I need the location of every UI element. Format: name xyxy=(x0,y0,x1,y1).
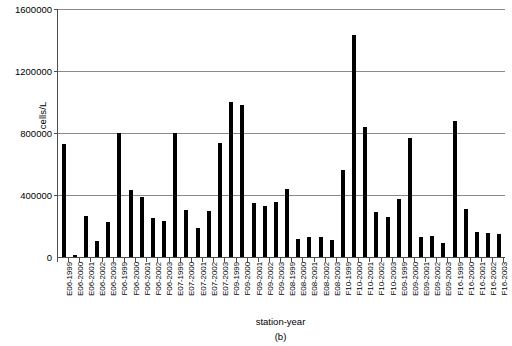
bar xyxy=(62,144,66,257)
bar xyxy=(84,216,88,257)
x-tick-label-wrap: F06-2002 xyxy=(146,262,157,314)
bar-slot xyxy=(315,9,326,257)
x-tick-label-wrap: F10-2002 xyxy=(370,262,381,314)
bar-slot xyxy=(460,9,471,257)
x-tick-label-wrap: F10-1999 xyxy=(336,262,347,314)
x-tick-label-wrap: F10-2003 xyxy=(381,262,392,314)
bar-slot xyxy=(404,9,415,257)
x-tick-label-wrap: F06-1999 xyxy=(113,262,124,314)
x-tick-label-wrap: F06-2003 xyxy=(158,262,169,314)
y-tick-label-1200000: 1200000 xyxy=(0,67,52,77)
bar-slot xyxy=(214,9,225,257)
bar xyxy=(240,105,244,257)
bar-slot xyxy=(259,9,270,257)
bar-slot xyxy=(348,9,359,257)
bar xyxy=(441,243,445,257)
bar-chart-figure: cells/L 1600000 1200000 800000 400000 0 … xyxy=(0,0,512,346)
bar-slot xyxy=(69,9,80,257)
x-tick-label-wrap: E06-2003 xyxy=(102,262,113,314)
bar-slot xyxy=(416,9,427,257)
bar xyxy=(218,143,222,257)
bar xyxy=(475,232,479,257)
x-axis-title: station-year xyxy=(57,316,504,327)
bar xyxy=(95,241,99,257)
x-tick-label-wrap: E09-2000 xyxy=(403,262,414,314)
bar xyxy=(386,217,390,257)
bar xyxy=(196,228,200,257)
bar-slot xyxy=(471,9,482,257)
bar xyxy=(252,203,256,257)
bar xyxy=(397,199,401,257)
bar-slot xyxy=(281,9,292,257)
y-tick-label-0: 0 xyxy=(0,253,52,263)
bar xyxy=(374,212,378,257)
x-tick-label-wrap: E06-2001 xyxy=(79,262,90,314)
x-tick-label-wrap: E08-2000 xyxy=(292,262,303,314)
bar-slot xyxy=(494,9,505,257)
bar xyxy=(207,211,211,257)
bar-slot xyxy=(226,9,237,257)
x-tick-label-wrap: E09-2003 xyxy=(437,262,448,314)
y-tick-label-800000: 800000 xyxy=(0,129,52,139)
x-tick-label-wrap: F16-2003 xyxy=(493,262,504,314)
bar xyxy=(419,237,423,257)
bar xyxy=(117,133,121,257)
bar xyxy=(408,138,412,257)
x-tick-label-wrap: F16-1999 xyxy=(448,262,459,314)
bar-slot xyxy=(159,9,170,257)
bar xyxy=(330,240,334,257)
bar xyxy=(263,206,267,257)
x-tick-label-wrap: F09-2001 xyxy=(247,262,258,314)
x-tick-label-wrap: E07-2003 xyxy=(213,262,224,314)
plot-area xyxy=(57,9,505,258)
x-tick-label-wrap: E07-2002 xyxy=(202,262,213,314)
x-tick-label-wrap: E09-2001 xyxy=(415,262,426,314)
bar xyxy=(274,202,278,257)
bar xyxy=(162,221,166,257)
x-tick-label-wrap: E07-2000 xyxy=(180,262,191,314)
bar xyxy=(229,102,233,257)
bar-slot xyxy=(326,9,337,257)
bar xyxy=(497,234,501,257)
bar xyxy=(486,233,490,257)
y-tick-label-400000: 400000 xyxy=(0,191,52,201)
bar-slot xyxy=(170,9,181,257)
bar xyxy=(106,222,110,257)
bar-slot xyxy=(360,9,371,257)
x-tick-label-wrap: E08-2003 xyxy=(325,262,336,314)
bar-slot xyxy=(58,9,69,257)
y-axis-tick-labels: 1600000 1200000 800000 400000 0 xyxy=(0,0,52,270)
bar-slot xyxy=(92,9,103,257)
bar-slot xyxy=(427,9,438,257)
bar-slot xyxy=(103,9,114,257)
x-tick-label-wrap: F16-2000 xyxy=(459,262,470,314)
bar-slot xyxy=(304,9,315,257)
bar xyxy=(129,190,133,257)
bar-slot xyxy=(483,9,494,257)
bar-slot xyxy=(337,9,348,257)
x-axis-tick-labels: E06-1999E06-2000E06-2001E06-2002E06-2003… xyxy=(57,262,504,314)
x-tick-label-wrap: E07-2001 xyxy=(191,262,202,314)
bar-slot xyxy=(136,9,147,257)
bar xyxy=(453,121,457,257)
bar-slot xyxy=(248,9,259,257)
bar xyxy=(363,127,367,257)
bar xyxy=(173,133,177,257)
x-tick-label-wrap: E06-2000 xyxy=(68,262,79,314)
x-tick-label-wrap: E09-1999 xyxy=(392,262,403,314)
bar-slot xyxy=(438,9,449,257)
bar xyxy=(464,209,468,257)
x-tick-label-wrap: F10-2001 xyxy=(359,262,370,314)
x-tick-label-wrap: E07-1999 xyxy=(169,262,180,314)
x-tick-label-wrap: E06-1999 xyxy=(57,262,68,314)
bar xyxy=(285,189,289,257)
x-tick-label-wrap: F06-2000 xyxy=(124,262,135,314)
x-tick-label-wrap: F09-2003 xyxy=(269,262,280,314)
bar xyxy=(352,35,356,257)
x-tick-label-wrap: F10-2000 xyxy=(347,262,358,314)
bar-slot xyxy=(371,9,382,257)
figure-caption: (b) xyxy=(57,331,504,342)
bar-slot xyxy=(114,9,125,257)
bar xyxy=(151,218,155,257)
x-tick-label-wrap: F06-2001 xyxy=(135,262,146,314)
